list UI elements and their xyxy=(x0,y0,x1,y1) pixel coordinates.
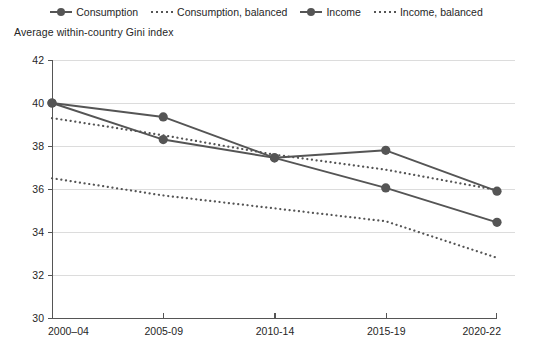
line-chart: 30323436384042 2000–042005-092010-142015… xyxy=(0,0,533,346)
data-series-layer xyxy=(52,103,497,258)
x-axis-tick-label: 2000–04 xyxy=(48,325,89,337)
data-point-marker[interactable] xyxy=(47,98,56,107)
x-axis-tick-label: 2005-09 xyxy=(144,325,183,337)
data-markers-layer xyxy=(47,98,501,227)
y-axis-tick-labels: 30323436384042 xyxy=(32,54,44,324)
series-line-consumption xyxy=(52,103,497,222)
series-line-consumption-balanced xyxy=(52,178,497,258)
x-axis-ticks xyxy=(164,313,497,318)
data-point-marker[interactable] xyxy=(159,112,168,121)
data-point-marker[interactable] xyxy=(381,146,390,155)
chart-plot-area: 30323436384042 2000–042005-092010-142015… xyxy=(0,0,533,346)
x-axis-tick-label: 2015-19 xyxy=(367,325,406,337)
y-axis-tick-label: 34 xyxy=(32,226,44,238)
y-axis-tick-label: 42 xyxy=(32,54,44,66)
data-point-marker[interactable] xyxy=(492,218,501,227)
series-line-income xyxy=(52,103,497,191)
data-point-marker[interactable] xyxy=(159,135,168,144)
x-axis-tick-label: 2010-14 xyxy=(256,325,295,337)
x-axis-tick-labels: 2000–042005-092010-142015-192020-22 xyxy=(48,325,501,337)
gridlines xyxy=(52,61,515,276)
y-axis-tick-label: 38 xyxy=(32,140,44,152)
y-axis-tick-label: 36 xyxy=(32,183,44,195)
data-point-marker[interactable] xyxy=(381,183,390,192)
x-axis-tick-label: 2020-22 xyxy=(462,325,501,337)
y-axis-tick-label: 30 xyxy=(32,312,44,324)
data-point-marker[interactable] xyxy=(492,187,501,196)
y-axis-tick-label: 32 xyxy=(32,269,44,281)
data-point-marker[interactable] xyxy=(270,153,279,162)
y-axis-tick-label: 40 xyxy=(32,97,44,109)
